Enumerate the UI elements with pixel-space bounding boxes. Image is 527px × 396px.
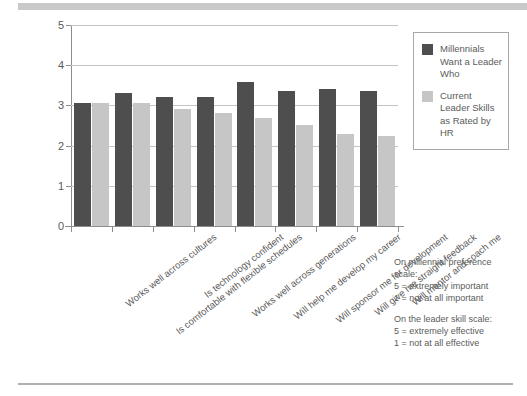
- bar-millennials: [156, 97, 173, 226]
- x-tick-mark: [398, 226, 399, 232]
- chart-legend: Millennials Want a Leader Who Current Le…: [413, 32, 509, 150]
- footnote-line: On millennial preference: [394, 257, 492, 267]
- x-tick-mark: [235, 226, 236, 232]
- bar-current-leader: [133, 103, 150, 226]
- footnote-line: On the leader skill scale:: [394, 314, 492, 324]
- bar-current-leader: [337, 134, 354, 226]
- bar-group: [278, 25, 313, 226]
- bar-millennials: [197, 97, 214, 226]
- y-tick-label: 5: [58, 20, 64, 31]
- x-tick-mark: [71, 226, 72, 232]
- legend-swatch-current-leader: [422, 91, 433, 102]
- x-tick-mark: [316, 226, 317, 232]
- legend-label-current-leader: Current Leader Skills as Rated by HR: [440, 90, 502, 140]
- legend-item: Current Leader Skills as Rated by HR: [422, 90, 502, 140]
- bar-current-leader: [378, 136, 395, 226]
- x-tick-mark: [153, 226, 154, 232]
- bar-millennials: [319, 89, 336, 226]
- bar-current-leader: [296, 125, 313, 226]
- footnote-line: 5 = extremely important: [394, 281, 488, 291]
- bar-group: [360, 25, 395, 226]
- x-axis-label: Is technology confident: [203, 232, 285, 299]
- footnote-line: 1 = not at all important: [394, 293, 483, 303]
- x-axis-label: Works well across cultures: [124, 232, 218, 309]
- bar-group: [74, 25, 109, 226]
- footnote-block: On millennial preference scale: 5 = extr…: [394, 256, 527, 349]
- bar-group: [115, 25, 150, 226]
- y-tick-mark: [66, 105, 71, 106]
- y-tick-label: 1: [58, 180, 64, 191]
- legend-item: Millennials Want a Leader Who: [422, 43, 502, 81]
- y-tick-label: 4: [58, 60, 64, 71]
- y-tick-label: 0: [58, 221, 64, 232]
- y-tick-mark: [66, 65, 71, 66]
- y-tick-mark: [66, 25, 71, 26]
- bar-current-leader: [255, 118, 272, 226]
- x-tick-mark: [357, 226, 358, 232]
- bar-group: [319, 25, 354, 226]
- footnote-line: 1 = not at all effective: [394, 338, 479, 348]
- bottom-decorative-rule: [18, 383, 513, 385]
- x-axis-label: Works well across generations: [250, 232, 357, 319]
- bar-millennials: [278, 91, 295, 226]
- bar-millennials: [360, 91, 377, 226]
- bar-millennials: [74, 103, 91, 226]
- legend-label-millennials: Millennials Want a Leader Who: [440, 43, 502, 81]
- chart-plot-area: 012345: [71, 25, 398, 226]
- y-tick-label: 2: [58, 140, 64, 151]
- footnote-line: 5 = extremely effective: [394, 326, 484, 336]
- x-axis-label: Is comfortable with flexible schedules: [175, 232, 304, 336]
- y-tick-label: 3: [58, 100, 64, 111]
- x-tick-mark: [275, 226, 276, 232]
- bar-current-leader: [92, 103, 109, 226]
- bar-current-leader: [215, 113, 232, 226]
- x-tick-mark: [194, 226, 195, 232]
- legend-swatch-millennials: [422, 44, 433, 55]
- y-tick-mark: [66, 146, 71, 147]
- y-axis-line: [71, 25, 72, 227]
- x-tick-mark: [112, 226, 113, 232]
- bar-group: [156, 25, 191, 226]
- bar-current-leader: [174, 109, 191, 226]
- footnote-millennial-scale: On millennial preference scale: 5 = extr…: [394, 256, 527, 304]
- bar-millennials: [237, 82, 254, 226]
- bar-group: [237, 25, 272, 226]
- footnote-leader-scale: On the leader skill scale: 5 = extremely…: [394, 313, 527, 349]
- bar-millennials: [115, 93, 132, 226]
- bar-group: [197, 25, 232, 226]
- x-axis-label: Will help me develop my career: [292, 232, 402, 321]
- top-decorative-rule: [18, 3, 527, 10]
- footnote-line: scale:: [394, 269, 418, 279]
- y-tick-mark: [66, 186, 71, 187]
